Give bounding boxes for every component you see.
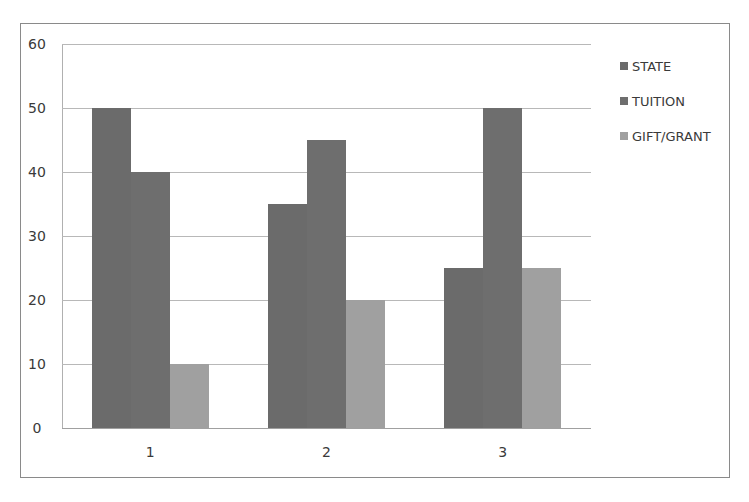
- y-tick-label: 0: [22, 420, 52, 436]
- bar-tuition-3: [483, 108, 522, 428]
- bar-state-2: [268, 204, 307, 428]
- y-tick-label: 50: [22, 100, 52, 116]
- x-tick-label: 2: [312, 444, 342, 460]
- bar-gift-grant-2: [346, 300, 385, 428]
- y-tick-label: 60: [22, 36, 52, 52]
- bar-state-3: [444, 268, 483, 428]
- x-axis-line: [62, 428, 591, 429]
- legend-label: STATE: [632, 59, 671, 74]
- legend-item: TUITION: [620, 93, 685, 111]
- legend-swatch-icon: [620, 97, 628, 105]
- y-tick-label: 30: [22, 228, 52, 244]
- y-tick-label: 20: [22, 292, 52, 308]
- bar-tuition-1: [131, 172, 170, 428]
- y-tick-label: 10: [22, 356, 52, 372]
- bar-gift-grant-3: [522, 268, 561, 428]
- bar-state-1: [92, 108, 131, 428]
- x-tick-label: 3: [488, 444, 518, 460]
- y-tick-label: 40: [22, 164, 52, 180]
- legend-label: GIFT/GRANT: [632, 129, 711, 144]
- legend-swatch-icon: [620, 62, 628, 70]
- x-tick-label: 1: [135, 444, 165, 460]
- legend-item: STATE: [620, 58, 671, 76]
- plot-area: [62, 44, 591, 428]
- legend-swatch-icon: [620, 132, 628, 140]
- gridline: [62, 44, 591, 45]
- legend-item: GIFT/GRANT: [620, 128, 711, 146]
- bar-tuition-2: [307, 140, 346, 428]
- bar-gift-grant-1: [170, 364, 209, 428]
- legend-label: TUITION: [632, 94, 685, 109]
